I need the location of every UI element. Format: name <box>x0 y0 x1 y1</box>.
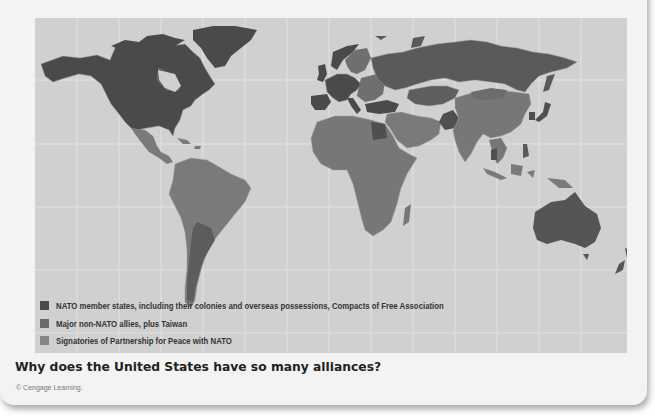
region-uk-nato <box>317 64 327 82</box>
region-mexico <box>131 128 173 164</box>
figure-credit: © Cengage Learning. <box>16 384 83 391</box>
legend-item-partnership-for-peace: Signatories of Partnership for Peace wit… <box>40 332 529 350</box>
world-alliances-map: NATO member states, including their colo… <box>35 18 627 353</box>
legend-item-nato: NATO member states, including their colo… <box>40 297 529 315</box>
region-north-america-nato <box>41 40 215 136</box>
region-iberia-nato <box>311 94 331 110</box>
region-egypt-major-non-nato <box>371 122 387 140</box>
legend-label-nato: NATO member states, including their colo… <box>56 300 444 311</box>
legend-swatch-partnership-for-peace <box>40 336 49 345</box>
legend-label-partnership-for-peace: Signatories of Partnership for Peace wit… <box>56 335 232 346</box>
region-australia-major-non-nato <box>533 192 601 248</box>
region-thailand-major-non-nato <box>491 148 497 160</box>
region-philippines-major-non-nato <box>523 144 529 158</box>
legend-swatch-nato <box>40 301 49 310</box>
map-legend: NATO member states, including their colo… <box>40 297 529 350</box>
figure-question: Why does the United States have so many … <box>15 360 381 374</box>
legend-label-major-non-nato: Major non-NATO allies, plus Taiwan <box>56 318 187 329</box>
region-italy-nato <box>347 98 361 114</box>
region-tasmania <box>583 254 589 260</box>
region-western-europe-nato <box>325 74 361 102</box>
region-turkey-nato <box>365 100 399 114</box>
legend-swatch-major-non-nato <box>40 319 49 328</box>
region-russia-arctic-islands <box>375 36 425 48</box>
region-japan-major-non-nato <box>535 102 551 122</box>
region-korea-major-non-nato <box>529 112 535 120</box>
region-central-asia-pfp <box>407 86 459 106</box>
legend-item-major-non-nato: Major non-NATO allies, plus Taiwan <box>40 315 529 333</box>
region-kamchatka <box>543 74 555 92</box>
